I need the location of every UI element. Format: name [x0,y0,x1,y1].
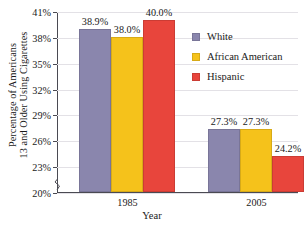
y-axis-tick-label: 38% [32,32,51,43]
x-axis-category-label: 2005 [246,197,266,208]
legend-label: White [207,31,233,42]
bar [240,129,272,192]
legend-item: White [192,28,283,45]
bar [79,29,111,192]
y-axis-tick-label: 32% [32,84,51,95]
y-axis-tick [53,193,57,194]
bar [272,156,304,192]
bar-value-label: 24.2% [275,143,301,154]
y-axis-tick-label: 20% [32,188,51,199]
legend-label: Hispanic [207,71,244,82]
bar-chart: Percentage of Americans 13 and Older Usi… [0,0,304,228]
bar-value-label: 40.0% [146,7,172,18]
legend-swatch [192,53,200,61]
legend-swatch [192,33,200,41]
bar [208,129,240,192]
y-axis-tick-label: 29% [32,110,51,121]
x-axis-category-label: 1985 [117,197,137,208]
legend-item: African American [192,48,283,65]
y-axis-title: Percentage of Americans 13 and Older Usi… [1,0,35,191]
y-axis-tick-label: 41% [32,7,51,18]
y-axis-tick-label: 26% [32,136,51,147]
bar [143,20,175,192]
y-axis-tick-label: 35% [32,58,51,69]
y-axis-title-line-2: 13 and Older Using Cigarettes [18,32,29,159]
chart-legend: WhiteAfrican AmericanHispanic [192,28,283,88]
bar-value-label: 27.3% [211,116,237,127]
x-axis-title: Year [0,210,304,221]
legend-item: Hispanic [192,68,283,85]
y-axis-tick-label: 23% [32,162,51,173]
legend-swatch [192,73,200,81]
gridline [57,193,298,194]
legend-label: African American [207,51,283,62]
bar-value-label: 38.0% [114,24,140,35]
y-axis-title-line-1: Percentage of Americans [7,43,18,147]
bar [111,37,143,192]
bar-value-label: 38.9% [82,16,108,27]
bar-value-label: 27.3% [243,116,269,127]
